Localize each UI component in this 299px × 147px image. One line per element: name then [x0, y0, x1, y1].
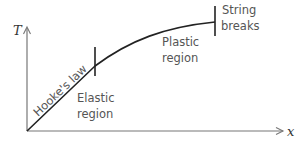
string-breaks-line2: breaks: [221, 19, 260, 33]
y-axis-label: T: [13, 23, 23, 38]
plastic-region-label: Plastic region: [162, 35, 199, 65]
tension-extension-diagram: T x Hooke's law Elastic region Plastic r…: [0, 0, 299, 147]
y-axis: T: [13, 23, 31, 131]
plastic-region-line1: Plastic: [162, 35, 199, 49]
elastic-region-line1: Elastic: [77, 91, 115, 105]
plastic-region-line2: region: [162, 51, 198, 65]
elastic-region-label: Elastic region: [77, 91, 115, 121]
string-breaks-line1: String: [222, 3, 256, 17]
x-axis-label: x: [287, 124, 295, 139]
x-axis: x: [27, 124, 295, 139]
elastic-region-line2: region: [77, 107, 113, 121]
string-breaks-label: String breaks: [221, 3, 260, 33]
